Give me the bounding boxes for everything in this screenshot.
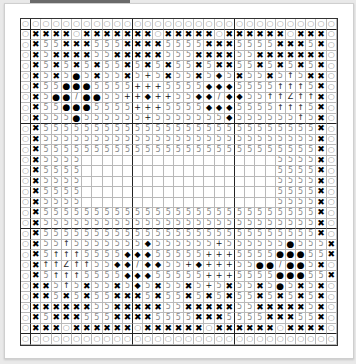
cell-five-icon: 5 [194, 124, 204, 135]
cell-filled-diamond-icon: ◆ [225, 82, 235, 93]
cell-five-icon: 5 [113, 145, 123, 156]
cell-five-icon: 5 [174, 271, 184, 282]
cell-blank-icon [235, 166, 245, 177]
cell-five-icon: 5 [164, 135, 174, 146]
cell-blank-icon [194, 187, 204, 198]
cell-five-icon: 5 [153, 61, 163, 72]
cell-plus-icon: + [204, 282, 214, 293]
cell-five-icon: 5 [133, 124, 143, 135]
cell-five-icon: 5 [266, 219, 276, 230]
cell-blank-icon [194, 156, 204, 167]
cell-five-icon: 5 [184, 103, 194, 114]
cell-five-icon: 5 [113, 271, 123, 282]
cell-heavy-x-icon: ✖ [123, 303, 133, 314]
cell-open-circle-icon: ○ [327, 229, 337, 240]
cell-five-icon: 5 [184, 313, 194, 324]
cell-five-icon: 5 [316, 250, 326, 261]
cell-five-icon: 5 [153, 240, 163, 251]
cell-five-icon: 5 [82, 313, 92, 324]
cell-heavy-x-icon: ✖ [143, 303, 153, 314]
cell-five-icon: 5 [204, 124, 214, 135]
cell-heavy-x-icon: ✖ [266, 324, 276, 335]
cell-five-icon: 5 [184, 271, 194, 282]
cell-heavy-x-icon: ✖ [82, 303, 92, 314]
cell-heavy-x-icon: ✖ [306, 30, 316, 41]
cell-five-icon: 5 [82, 240, 92, 251]
cell-heavy-x-icon: ✖ [235, 324, 245, 335]
cell-five-icon: 5 [92, 229, 102, 240]
cell-five-icon: 5 [306, 219, 316, 230]
cell-plus-icon: + [143, 103, 153, 114]
cell-open-circle-icon: ○ [21, 51, 31, 62]
cell-up-arrow-icon: ↑ [62, 240, 72, 251]
cell-open-circle-icon: ○ [21, 303, 31, 314]
cell-heavy-x-icon: ✖ [286, 40, 296, 51]
cell-open-circle-icon: ○ [327, 61, 337, 72]
cell-five-icon: 5 [52, 40, 62, 51]
cell-heavy-x-icon: ✖ [113, 324, 123, 335]
cell-five-icon: 5 [276, 145, 286, 156]
cell-open-circle-icon: ○ [316, 19, 326, 30]
cell-five-icon: 5 [174, 145, 184, 156]
cell-heavy-x-icon: ✖ [204, 40, 214, 51]
cell-five-icon: 5 [82, 135, 92, 146]
cell-heavy-x-icon: ✖ [245, 30, 255, 41]
cell-blank-icon [82, 187, 92, 198]
cell-open-circle-icon: ○ [194, 334, 204, 345]
cell-heavy-x-icon: ✖ [133, 51, 143, 62]
cell-heavy-x-icon: ✖ [316, 93, 326, 104]
cell-filled-diamond-icon: ◆ [225, 93, 235, 104]
cell-heavy-x-icon: ✖ [123, 72, 133, 83]
cell-five-icon: 5 [276, 156, 286, 167]
cell-open-circle-icon: ○ [286, 334, 296, 345]
cell-five-icon: 5 [184, 40, 194, 51]
cell-heavy-x-icon: ✖ [316, 82, 326, 93]
cell-five-icon: 5 [52, 240, 62, 251]
cell-blank-icon [235, 177, 245, 188]
cell-heavy-x-icon: ✖ [113, 292, 123, 303]
cell-heavy-x-icon: ✖ [316, 51, 326, 62]
cell-filled-diamond-icon: ◆ [225, 103, 235, 114]
cell-five-icon: 5 [41, 103, 51, 114]
cell-open-circle-icon: ○ [92, 19, 102, 30]
cell-five-icon: 5 [184, 240, 194, 251]
cell-five-icon: 5 [215, 124, 225, 135]
cell-five-icon: 5 [164, 303, 174, 314]
cell-filled-diamond-icon: ◆ [143, 240, 153, 251]
cell-filled-diamond-icon: ◆ [143, 271, 153, 282]
cell-five-icon: 5 [41, 135, 51, 146]
cell-open-circle-icon: ○ [72, 334, 82, 345]
cell-blank-icon [245, 166, 255, 177]
cell-blank-icon [225, 187, 235, 198]
cell-five-icon: 5 [306, 114, 316, 125]
cell-heavy-x-icon: ✖ [276, 30, 286, 41]
cell-up-arrow-icon: ↑ [296, 82, 306, 93]
cell-five-icon: 5 [184, 61, 194, 72]
cell-blank-icon [164, 177, 174, 188]
cell-five-icon: 5 [103, 51, 113, 62]
cell-five-icon: 5 [92, 82, 102, 93]
cell-five-icon: 5 [255, 72, 265, 83]
cell-five-icon: 5 [52, 229, 62, 240]
cell-heavy-x-icon: ✖ [327, 271, 337, 282]
cell-heavy-x-icon: ✖ [31, 177, 41, 188]
cell-five-icon: 5 [266, 103, 276, 114]
cell-five-icon: 5 [41, 271, 51, 282]
cell-five-icon: 5 [204, 229, 214, 240]
cell-open-circle-icon: ○ [21, 135, 31, 146]
cell-five-icon: 5 [164, 219, 174, 230]
cell-filled-circle-icon: ● [52, 93, 62, 104]
cell-five-icon: 5 [276, 219, 286, 230]
cell-five-icon: 5 [255, 40, 265, 51]
cell-five-icon: 5 [316, 240, 326, 251]
cell-five-icon: 5 [153, 124, 163, 135]
cell-five-icon: 5 [174, 208, 184, 219]
cell-heavy-x-icon: ✖ [184, 292, 194, 303]
cell-five-icon: 5 [153, 313, 163, 324]
cell-open-circle-icon: ○ [327, 51, 337, 62]
cell-plus-icon: + [215, 240, 225, 251]
cell-five-icon: 5 [245, 208, 255, 219]
cell-blank-icon [153, 187, 163, 198]
cell-heavy-x-icon: ✖ [174, 30, 184, 41]
cell-heavy-x-icon: ✖ [153, 292, 163, 303]
